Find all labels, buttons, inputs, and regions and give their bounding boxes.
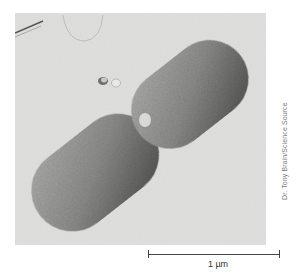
photo-credit: Dr. Tony Brain/Science Source <box>281 102 288 200</box>
micrograph-photo <box>15 13 266 245</box>
scale-bar-left-tick <box>148 250 149 258</box>
scale-bar-right-tick <box>279 250 280 258</box>
scale-bar-label: 1 µm <box>198 259 238 269</box>
bacterium-illustration <box>15 13 266 245</box>
scale-bar-line <box>148 254 280 255</box>
scale-bar <box>148 250 280 258</box>
